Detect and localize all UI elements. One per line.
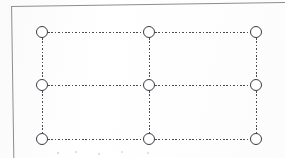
lattice-node — [250, 26, 262, 38]
lattice-edge — [48, 139, 143, 140]
lattice-edge — [155, 139, 250, 140]
lattice-node — [36, 26, 48, 38]
lattice-edge — [149, 91, 150, 133]
lattice-edge — [48, 32, 143, 33]
lattice-edge — [155, 85, 250, 86]
lattice-edge — [42, 91, 43, 133]
lattice-diagram — [0, 0, 285, 158]
lattice-node — [250, 133, 262, 145]
lattice-node — [143, 26, 155, 38]
lattice-node — [143, 79, 155, 91]
scanned-figure-page — [0, 0, 285, 158]
lattice-edge — [256, 91, 257, 133]
lattice-edge — [155, 32, 250, 33]
lattice-edge — [48, 85, 143, 86]
lattice-node — [143, 133, 155, 145]
lattice-edge — [256, 38, 257, 79]
lattice-edge — [42, 38, 43, 79]
lattice-node — [36, 79, 48, 91]
lattice-node — [36, 133, 48, 145]
lattice-node — [250, 79, 262, 91]
lattice-edge — [149, 38, 150, 79]
